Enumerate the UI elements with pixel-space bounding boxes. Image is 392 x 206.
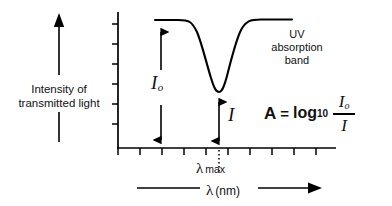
i-label: I <box>228 104 234 126</box>
i0-symbol: I <box>151 72 157 93</box>
formula-fraction: Io I <box>333 92 355 136</box>
y-axis-label-line2: transmitted light <box>18 97 99 109</box>
i-symbol: I <box>228 104 234 125</box>
formula-numerator: Io <box>336 92 353 113</box>
i0-label: Io <box>151 72 163 94</box>
uv-band-line2: absorption <box>271 41 322 53</box>
y-axis <box>112 12 118 149</box>
lambda-symbol: λ <box>196 160 203 176</box>
x-axis-unit: (nm) <box>215 184 240 198</box>
formula-a-term: A <box>264 104 276 124</box>
y-axis-label-line1: Intensity of <box>31 83 87 95</box>
formula-numerator-subscript: o <box>345 100 350 111</box>
x-axis-lambda-symbol: λ <box>206 182 213 198</box>
absorbance-formula: A = log10 Io I <box>264 92 355 136</box>
lambda-max-label: λmax <box>196 160 225 178</box>
formula-equals: = <box>280 105 289 123</box>
uv-absorption-diagram: Intensity of transmitted light Io I UV a… <box>0 0 392 206</box>
y-axis-label: Intensity of transmitted light <box>6 83 112 110</box>
x-axis <box>117 148 336 155</box>
uv-band-line3: band <box>285 54 309 66</box>
uv-band-line1: UV <box>289 28 304 40</box>
x-axis-ticks <box>118 148 316 155</box>
uv-absorption-band-label: UV absorption band <box>253 28 341 67</box>
i0-subscript: o <box>158 81 164 93</box>
x-axis-label: λ(nm) <box>206 182 240 200</box>
y-axis-ticks <box>112 24 118 124</box>
formula-denominator: I <box>338 115 350 136</box>
formula-log-term: log <box>293 104 317 123</box>
intensity-direction-arrow <box>54 13 64 142</box>
lambda-max-subscript: max <box>205 163 225 175</box>
formula-log-subscript: 10 <box>317 108 328 120</box>
